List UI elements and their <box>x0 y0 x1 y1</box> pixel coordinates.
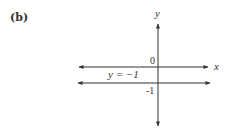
line-equation-label: y = −1 <box>107 68 139 80</box>
y-tick-minus-1-label: -1 <box>146 85 154 96</box>
origin-label: 0 <box>150 55 155 66</box>
coordinate-plane: y x 0 -1 y = −1 <box>0 0 229 134</box>
y-axis-label: y <box>154 7 160 19</box>
x-axis-label: x <box>213 60 219 72</box>
